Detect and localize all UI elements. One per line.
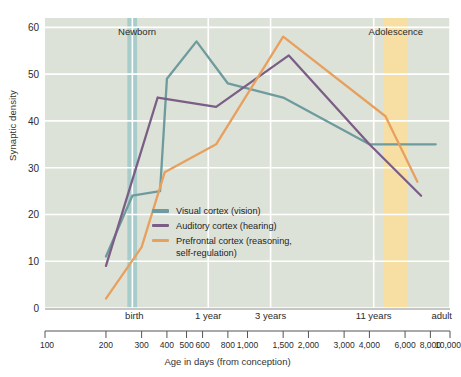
log-ruler-tick-label: 400 [160,340,174,350]
legend-item[interactable]: Auditory cortex (hearing) [152,220,292,232]
log-ruler-tick-label: 10,000 [435,340,461,350]
x-axis-category-label: 1 year [195,310,221,321]
log-ruler-tick-label: 1,500 [273,340,294,350]
log-ruler-tick-label: 4,000 [359,340,380,350]
log-ruler-tick-label: 600 [195,340,209,350]
band-label-newborn: Newborn [118,26,156,37]
y-axis-tick-label: 10 [11,256,39,267]
log-ruler-tick-label: 800 [221,340,235,350]
y-axis-tick-label: 0 [11,303,39,314]
x-axis-title: Age in days (from conception) [0,356,455,367]
legend-swatch-icon [152,224,169,227]
legend-item[interactable]: Visual cortex (vision) [152,205,292,217]
legend-label: Auditory cortex (hearing) [176,220,277,232]
y-axis-tick-label: 50 [11,69,39,80]
x-axis-category-label: 11 years [356,310,392,321]
legend-item[interactable]: Prefrontal cortex (reasoning, self-regul… [152,235,292,260]
chart-legend: Visual cortex (vision)Auditory cortex (h… [152,205,292,262]
y-axis-tick-label: 30 [11,162,39,173]
log-ruler-tick-label: 3,000 [333,340,354,350]
log-ruler-tick-label: 200 [99,340,113,350]
legend-swatch-icon [152,239,169,242]
y-axis-tick-label: 20 [11,209,39,220]
log-ruler-tick-label: 2,000 [298,340,319,350]
legend-label: Prefrontal cortex (reasoning, self-regul… [176,235,292,260]
x-axis-category-label: 3 years [255,310,286,321]
band-label-adolescence: Adolescence [369,26,423,37]
x-axis-category-label: birth [125,310,143,321]
log-ruler-tick-label: 300 [135,340,149,350]
x-axis-category-label: adult [431,310,452,321]
log-ruler-tick-label: 1,000 [237,340,258,350]
y-axis-tick-label: 60 [11,22,39,33]
legend-swatch-icon [152,209,169,212]
log-ruler-tick-label: 500 [179,340,193,350]
log-ruler-tick-label: 100 [40,340,54,350]
legend-label: Visual cortex (vision) [176,205,261,217]
log-ruler-tick-label: 6,000 [394,340,415,350]
y-axis-tick-label: 40 [11,115,39,126]
